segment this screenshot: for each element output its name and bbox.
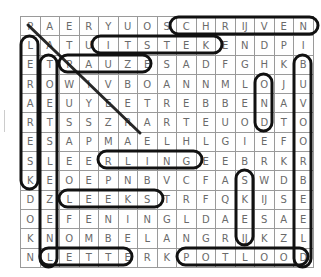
- grid-cell: L: [236, 75, 256, 94]
- grid-cell: V: [255, 17, 275, 36]
- grid-cell: L: [60, 191, 80, 210]
- grid-cell: E: [41, 210, 61, 229]
- grid-cell: C: [177, 17, 197, 36]
- grid-cell: J: [275, 75, 295, 94]
- grid-cell: N: [21, 249, 41, 268]
- grid-cell: N: [138, 210, 158, 229]
- grid-cell: R: [80, 17, 100, 36]
- grid-cell: U: [60, 94, 80, 113]
- grid-cell: K: [255, 229, 275, 248]
- grid-cell: P: [60, 56, 80, 75]
- grid-cell: L: [177, 210, 197, 229]
- grid-cell: S: [255, 210, 275, 229]
- grid-cell: N: [177, 75, 197, 94]
- grid-cell: I: [294, 36, 314, 55]
- grid-cell: E: [138, 133, 158, 152]
- grid-cell: E: [41, 171, 61, 190]
- grid-cell: P: [21, 17, 41, 36]
- grid-cell: N: [294, 17, 314, 36]
- grid-cell: A: [158, 75, 178, 94]
- grid-cell: E: [119, 249, 139, 268]
- grid-cell: L: [41, 249, 61, 268]
- grid-cell: O: [197, 249, 217, 268]
- grid-cell: U: [80, 36, 100, 55]
- grid-cell: D: [294, 249, 314, 268]
- grid-cell: E: [119, 94, 139, 113]
- grid-cell: B: [216, 94, 236, 113]
- grid-cell: O: [255, 75, 275, 94]
- grid-cell: W: [255, 171, 275, 190]
- grid-cell: A: [119, 133, 139, 152]
- grid-cell: D: [197, 56, 217, 75]
- grid-cell: E: [41, 94, 61, 113]
- grid-cell: E: [236, 210, 256, 229]
- grid-cell: O: [138, 17, 158, 36]
- grid-cell: T: [119, 36, 139, 55]
- grid-cell: A: [60, 133, 80, 152]
- grid-cell: T: [60, 36, 80, 55]
- grid-cell: E: [294, 210, 314, 229]
- grid-cell: F: [275, 133, 295, 152]
- grid-cell: O: [60, 229, 80, 248]
- grid-cell: E: [60, 249, 80, 268]
- grid-cell: E: [138, 56, 158, 75]
- grid-cell: O: [21, 210, 41, 229]
- grid-cell: S: [60, 113, 80, 132]
- margin-mark: [4, 110, 5, 132]
- grid-cell: L: [138, 229, 158, 248]
- grid-cell: E: [236, 94, 256, 113]
- grid-cell: P: [177, 249, 197, 268]
- grid-cell: R: [177, 191, 197, 210]
- grid-cell: D: [275, 171, 295, 190]
- grid-cell: U: [294, 75, 314, 94]
- grid-cell: R: [138, 249, 158, 268]
- grid-cell: E: [21, 133, 41, 152]
- grid-cell: R: [99, 152, 119, 171]
- grid-cell: Q: [216, 191, 236, 210]
- grid-cell: R: [21, 75, 41, 94]
- grid-cell: F: [197, 191, 217, 210]
- grid-cell: S: [158, 17, 178, 36]
- grid-cell: O: [138, 75, 158, 94]
- grid-cell: T: [80, 249, 100, 268]
- grid-cell: E: [60, 17, 80, 36]
- grid-cell: L: [119, 152, 139, 171]
- grid-cell: N: [41, 229, 61, 248]
- grid-cell: B: [294, 56, 314, 75]
- grid-cell: S: [41, 133, 61, 152]
- grid-cell: O: [60, 171, 80, 190]
- grid-cell: I: [138, 152, 158, 171]
- grid-cell: P: [99, 171, 119, 190]
- grid-cell: A: [41, 17, 61, 36]
- grid-cell: G: [236, 56, 256, 75]
- grid-cell: K: [21, 171, 41, 190]
- grid-cell: P: [80, 133, 100, 152]
- grid-cell: O: [294, 113, 314, 132]
- grid-cell: E: [197, 113, 217, 132]
- grid-cell: M: [216, 75, 236, 94]
- grid-cell: N: [158, 152, 178, 171]
- grid-cell: B: [119, 75, 139, 94]
- grid-cell: E: [216, 152, 236, 171]
- grid-cell: T: [177, 113, 197, 132]
- grid-cell: L: [197, 133, 217, 152]
- grid-cell: D: [255, 113, 275, 132]
- grid-cell: R: [216, 17, 236, 36]
- grid-cell: B: [197, 94, 217, 113]
- grid-cell: U: [216, 113, 236, 132]
- grid-cell: E: [119, 229, 139, 248]
- grid-cell: N: [236, 36, 256, 55]
- grid-cell: P: [275, 36, 295, 55]
- grid-cell: A: [216, 210, 236, 229]
- grid-cell: D: [21, 191, 41, 210]
- grid-cell: E: [80, 191, 100, 210]
- grid-cell: E: [60, 152, 80, 171]
- grid-cell: E: [216, 36, 236, 55]
- grid-cell: K: [119, 191, 139, 210]
- grid-cell: R: [216, 229, 236, 248]
- grid-cell: IJ: [236, 17, 256, 36]
- grid-cell: T: [99, 249, 119, 268]
- grid-cell: R: [158, 113, 178, 132]
- grid-cell: A: [177, 56, 197, 75]
- grid-cell: F: [60, 210, 80, 229]
